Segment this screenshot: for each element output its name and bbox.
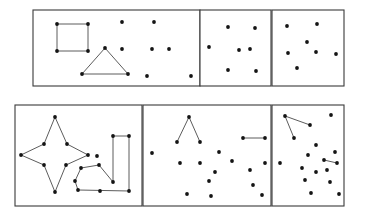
data-point-dot bbox=[237, 48, 241, 52]
data-point-dot bbox=[127, 134, 131, 138]
data-point-dot bbox=[178, 161, 182, 165]
data-point-dot bbox=[314, 143, 318, 147]
data-point-dot bbox=[111, 134, 115, 138]
data-point-dot bbox=[189, 74, 193, 78]
data-point-dot bbox=[292, 136, 296, 140]
data-point-dot bbox=[285, 24, 289, 28]
data-point-dot bbox=[150, 151, 154, 155]
data-point-dot bbox=[322, 158, 326, 162]
data-point-dot bbox=[209, 194, 213, 198]
panel-top-middle bbox=[200, 10, 271, 86]
data-point-dot bbox=[248, 168, 252, 172]
data-point-dot bbox=[305, 40, 309, 44]
data-point-dot bbox=[308, 123, 312, 127]
data-point-dot bbox=[120, 20, 124, 24]
panel-border-top-left bbox=[33, 10, 200, 86]
data-point-dot bbox=[306, 153, 310, 157]
data-point-dot bbox=[53, 190, 57, 194]
data-point-dot bbox=[230, 159, 234, 163]
panel-border-bottom-middle bbox=[143, 105, 271, 206]
data-point-dot bbox=[86, 49, 90, 53]
data-point-dot bbox=[80, 72, 84, 76]
data-point-dot bbox=[55, 49, 59, 53]
data-point-dot bbox=[263, 161, 267, 165]
data-point-dot bbox=[126, 72, 130, 76]
data-point-dot bbox=[329, 113, 333, 117]
data-point-dot bbox=[263, 136, 267, 140]
data-point-dot bbox=[53, 115, 57, 119]
data-point-dot bbox=[127, 189, 131, 193]
data-point-dot bbox=[328, 180, 332, 184]
panel-bottom-middle bbox=[143, 105, 271, 206]
data-point-dot bbox=[76, 188, 80, 192]
data-point-dot bbox=[207, 179, 211, 183]
figure-canvas bbox=[0, 0, 378, 224]
data-point-dot bbox=[120, 47, 124, 51]
data-point-dot bbox=[226, 68, 230, 72]
data-point-dot bbox=[19, 153, 23, 157]
data-point-dot bbox=[103, 46, 107, 50]
data-point-dot bbox=[315, 22, 319, 26]
data-point-dot bbox=[86, 22, 90, 26]
dot-pattern-figure bbox=[0, 0, 378, 224]
data-point-dot bbox=[241, 136, 245, 140]
data-point-dot bbox=[64, 163, 68, 167]
data-point-dot bbox=[314, 50, 318, 54]
data-point-dot bbox=[42, 142, 46, 146]
data-point-dot bbox=[152, 20, 156, 24]
panel-top-right bbox=[272, 10, 344, 86]
data-point-dot bbox=[167, 47, 171, 51]
data-point-dot bbox=[79, 166, 83, 170]
data-point-dot bbox=[283, 114, 287, 118]
data-point-dot bbox=[73, 179, 77, 183]
data-point-dot bbox=[185, 192, 189, 196]
data-point-dot bbox=[278, 161, 282, 165]
panel-bottom-right bbox=[272, 105, 344, 206]
panel-bottom-left bbox=[15, 105, 142, 206]
data-point-dot bbox=[95, 154, 99, 158]
panel-border-top-right bbox=[272, 10, 344, 86]
data-point-dot bbox=[198, 140, 202, 144]
data-point-dot bbox=[303, 178, 307, 182]
data-point-dot bbox=[198, 161, 202, 165]
data-point-dot bbox=[286, 51, 290, 55]
panel-top-left bbox=[33, 10, 200, 86]
data-point-dot bbox=[300, 166, 304, 170]
data-point-dot bbox=[309, 191, 313, 195]
data-point-dot bbox=[42, 163, 46, 167]
data-point-dot bbox=[98, 189, 102, 193]
data-point-dot bbox=[248, 47, 252, 51]
data-point-dot bbox=[145, 74, 149, 78]
data-point-dot bbox=[335, 161, 339, 165]
data-point-dot bbox=[337, 192, 341, 196]
data-point-dot bbox=[325, 168, 329, 172]
data-point-dot bbox=[86, 153, 90, 157]
data-point-dot bbox=[253, 26, 257, 30]
data-point-dot bbox=[97, 163, 101, 167]
data-point-dot bbox=[207, 45, 211, 49]
data-point-dot bbox=[213, 170, 217, 174]
data-point-dot bbox=[111, 180, 115, 184]
data-point-dot bbox=[217, 150, 221, 154]
data-point-dot bbox=[175, 140, 179, 144]
data-point-dot bbox=[333, 150, 337, 154]
data-point-dot bbox=[187, 115, 191, 119]
data-point-dot bbox=[251, 183, 255, 187]
data-point-dot bbox=[254, 69, 258, 73]
data-point-dot bbox=[260, 193, 264, 197]
data-point-dot bbox=[226, 25, 230, 29]
data-point-dot bbox=[295, 66, 299, 70]
data-point-dot bbox=[150, 47, 154, 51]
data-point-dot bbox=[65, 142, 69, 146]
panel-border-top-middle bbox=[200, 10, 271, 86]
data-point-dot bbox=[314, 170, 318, 174]
data-point-dot bbox=[55, 22, 59, 26]
data-point-dot bbox=[334, 52, 338, 56]
